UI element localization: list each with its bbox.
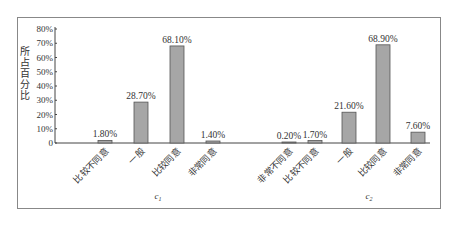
group-label: c1 (155, 191, 162, 202)
category-label: 比较同意 (149, 146, 182, 179)
bar-value-label: 7.60% (406, 121, 431, 131)
y-axis-label: 所占百分比 (20, 46, 30, 101)
category-label: 比较同意 (355, 146, 388, 179)
bar (98, 140, 112, 143)
bar (170, 46, 184, 143)
y-tick-label: 40% (37, 81, 54, 91)
bar (411, 132, 425, 143)
bar (308, 141, 322, 143)
bar-value-label: 21.60% (334, 101, 363, 111)
bar (376, 45, 390, 143)
category-label: 非常同意 (390, 146, 423, 179)
bar (206, 141, 220, 143)
y-tick-label: 80% (37, 24, 54, 34)
bar-value-label: 1.80% (93, 129, 118, 139)
group-label: c2 (366, 191, 373, 202)
y-tick-label: 30% (37, 95, 54, 105)
y-tick-label: 50% (37, 67, 54, 77)
bar-value-label: 28.70% (126, 91, 155, 101)
bar (282, 142, 296, 143)
y-tick-label: 70% (37, 38, 54, 48)
y-tick-label: 20% (37, 110, 54, 120)
y-tick-label: 10% (37, 124, 54, 134)
bar (134, 102, 148, 143)
bar (342, 112, 356, 143)
bar-value-label: 1.40% (201, 130, 226, 140)
bar-value-label: 68.90% (368, 34, 397, 44)
y-tick-label: 60% (37, 53, 54, 63)
bar-value-label: 68.10% (162, 35, 191, 45)
category-label: 一般 (126, 146, 147, 167)
y-tick-label: 0 (49, 138, 54, 148)
bar-chart: 010%20%30%40%50%60%70%80%所占百分比1.80%比较不同意… (0, 0, 455, 231)
category-label: 非常同意 (185, 146, 218, 179)
category-label: 比较不同意 (71, 146, 111, 186)
category-label: 一般 (334, 146, 355, 167)
bar-value-label: 0.20% (277, 131, 302, 141)
bar-value-label: 1.70% (303, 130, 328, 140)
